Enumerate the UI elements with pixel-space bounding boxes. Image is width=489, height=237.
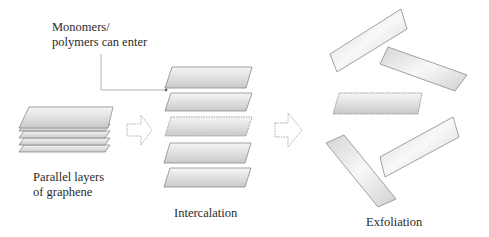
graphene-layer <box>165 67 252 88</box>
graphene-layer <box>19 131 110 138</box>
stage-label-parallel-layers: Parallel layers of graphene <box>33 170 104 200</box>
graphene-sheet <box>380 117 459 177</box>
graphene-layer <box>19 107 113 128</box>
intercalated-stack <box>164 67 252 187</box>
graphene-sheet <box>380 47 467 91</box>
process-arrow-icon <box>275 113 302 147</box>
graphene-layer <box>165 93 252 111</box>
callout-label-line2: polymers can enter <box>52 35 147 50</box>
graphene-layer <box>19 145 110 152</box>
graphene-sheet <box>333 93 422 114</box>
graphene-layer <box>165 117 252 136</box>
callout-label: Monomers/ polymers can enter <box>52 20 147 50</box>
callout-label-line1: Monomers/ <box>52 20 147 35</box>
diagram-canvas: Monomers/ polymers can enter Parallel la… <box>0 0 489 237</box>
process-arrow-icon <box>127 115 152 145</box>
stage-label-exfoliation: Exfoliation <box>366 215 422 230</box>
graphene-layer <box>164 168 251 187</box>
stage-label-intercalation: Intercalation <box>174 206 237 221</box>
exfoliated-sheets <box>326 9 467 207</box>
graphene-layer <box>164 143 251 163</box>
graphene-layer <box>19 138 110 145</box>
graphene-stack <box>19 107 113 152</box>
stage-label-line1: Parallel layers <box>33 170 104 185</box>
stage-label-line2: of graphene <box>33 185 104 200</box>
callout-line <box>101 54 167 91</box>
